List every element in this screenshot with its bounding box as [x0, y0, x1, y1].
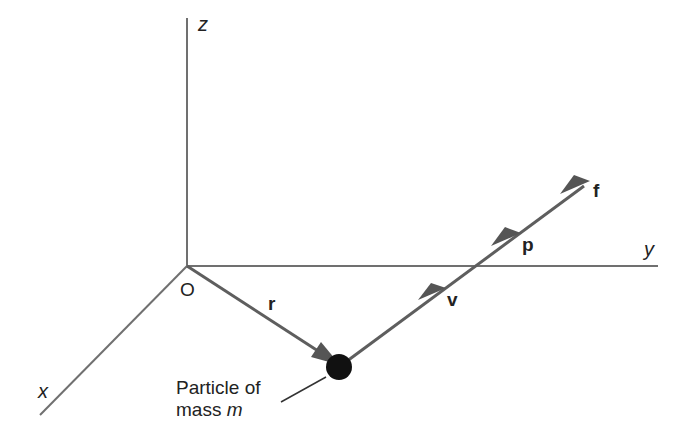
particle-caption-line1: Particle of: [176, 377, 260, 399]
x-axis: [40, 266, 187, 415]
mass-symbol: m: [227, 399, 243, 420]
particle-dot-icon: [326, 354, 352, 380]
position-vector-r: [187, 266, 332, 360]
x-axis-label: x: [38, 381, 48, 401]
mass-text: mass: [176, 399, 227, 420]
r-label: r: [268, 294, 275, 313]
v-label: v: [447, 290, 458, 309]
p-label: p: [522, 235, 534, 254]
force-momentum-velocity-line: [339, 186, 584, 367]
particle-caption: Particle of mass m: [176, 377, 260, 421]
z-axis-label: z: [198, 14, 208, 34]
particle-leader-line: [281, 377, 326, 402]
particle-caption-line2: mass m: [176, 399, 260, 421]
f-label: f: [593, 181, 599, 200]
particle-vector-diagram: z y x O r v p f Particle of mass m: [0, 0, 695, 444]
origin-label: O: [180, 280, 195, 299]
diagram-graphics: [0, 0, 695, 444]
y-axis-label: y: [644, 239, 654, 259]
